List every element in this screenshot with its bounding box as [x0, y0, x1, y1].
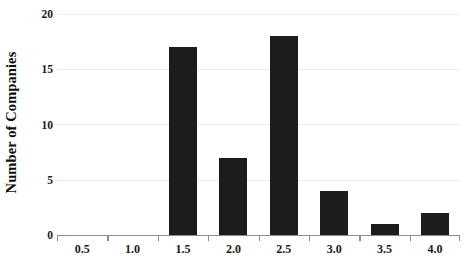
y-axis-tick-labels: 20 15 10 5 0 [24, 0, 53, 263]
bar-slot-2 [158, 14, 208, 235]
y-tick-label-10: 10 [27, 120, 53, 131]
bar-chart: Number of Companies 20 15 10 5 0 [0, 0, 467, 263]
bar-3[interactable] [219, 158, 247, 235]
bar-5[interactable] [320, 191, 348, 235]
x-axis-tick-labels: 0.5 1.0 1.5 2.0 2.5 3.0 3.5 4.0 [57, 241, 460, 263]
bar-slot-1 [107, 14, 157, 235]
y-axis-title: Number of Companies [0, 0, 24, 245]
bar-slot-6 [359, 14, 409, 235]
bar-7[interactable] [421, 213, 449, 235]
bar-4[interactable] [270, 36, 298, 235]
x-tick-label-6: 3.5 [359, 241, 409, 257]
bar-6[interactable] [371, 224, 399, 235]
x-tick-label-1: 1.0 [107, 241, 157, 257]
x-tick-label-7: 4.0 [410, 241, 460, 257]
y-tick-label-5: 5 [27, 175, 53, 186]
bar-slot-7 [410, 14, 460, 235]
x-tick-label-5: 3.0 [309, 241, 359, 257]
y-tick-label-15: 15 [27, 64, 53, 75]
bar-2[interactable] [169, 47, 197, 235]
x-tick-label-3: 2.0 [208, 241, 258, 257]
x-tick-label-0: 0.5 [57, 241, 107, 257]
bar-series [57, 14, 460, 235]
y-tick-label-20: 20 [27, 9, 53, 20]
bar-slot-5 [309, 14, 359, 235]
plot-area [57, 14, 460, 235]
x-tick-label-2: 1.5 [158, 241, 208, 257]
bar-slot-0 [57, 14, 107, 235]
bar-slot-4 [259, 14, 309, 235]
x-tick-label-4: 2.5 [259, 241, 309, 257]
y-axis-title-label: Number of Companies [4, 52, 21, 194]
y-tick-label-0: 0 [27, 230, 53, 241]
bar-slot-3 [208, 14, 258, 235]
